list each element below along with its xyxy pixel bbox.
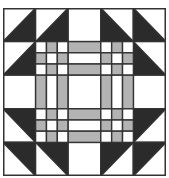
ninepatch-square-gray — [46, 109, 57, 120]
ninepatch-square-light — [123, 42, 134, 53]
ninepatch-square-gray — [101, 120, 112, 131]
ninepatch-square-light — [123, 109, 134, 120]
vertical-strip-gray — [36, 75, 47, 109]
ninepatch-square-light — [46, 53, 57, 64]
ninepatch-square-light — [46, 120, 57, 131]
horizontal-strip-light — [68, 120, 101, 131]
vertical-strip-light — [112, 75, 123, 109]
outer-cell — [3, 75, 36, 109]
horizontal-strip-gray — [68, 131, 101, 142]
outer-cell — [68, 142, 101, 176]
ninepatch-square-gray — [46, 131, 57, 142]
horizontal-strip-gray — [68, 64, 101, 75]
ninepatch-square-gray — [57, 53, 68, 64]
ninepatch-square-light — [36, 42, 47, 53]
ninepatch-square-gray — [57, 120, 68, 131]
vertical-strip-gray — [57, 75, 68, 109]
outer-cell — [133, 75, 166, 109]
ninepatch-square-light — [57, 42, 68, 53]
vertical-strip-light — [46, 75, 57, 109]
ninepatch-square-light — [57, 131, 68, 142]
ninepatch-square-gray — [112, 64, 123, 75]
ninepatch-square-gray — [123, 120, 134, 131]
ninepatch-square-light — [123, 131, 134, 142]
ninepatch-square-gray — [112, 42, 123, 53]
ninepatch-square-gray — [46, 64, 57, 75]
outer-cell — [68, 8, 101, 42]
ninepatch-square-light — [101, 42, 112, 53]
horizontal-strip-light — [68, 53, 101, 64]
ninepatch-square-light — [123, 64, 134, 75]
horizontal-strip-gray — [68, 109, 101, 120]
horizontal-strip-gray — [68, 42, 101, 53]
ninepatch-square-light — [57, 109, 68, 120]
ninepatch-square-light — [112, 120, 123, 131]
ninepatch-square-gray — [123, 53, 134, 64]
ninepatch-square-gray — [46, 42, 57, 53]
center-square — [68, 75, 101, 109]
ninepatch-square-light — [101, 64, 112, 75]
ninepatch-square-gray — [112, 131, 123, 142]
quilt-block-svg — [3, 8, 166, 176]
ninepatch-square-light — [57, 64, 68, 75]
vertical-strip-gray — [123, 75, 134, 109]
ninepatch-square-light — [112, 53, 123, 64]
vertical-strip-gray — [101, 75, 112, 109]
ninepatch-square-light — [36, 109, 47, 120]
quilt-block-diagram — [3, 8, 166, 176]
ninepatch-square-gray — [36, 120, 47, 131]
ninepatch-square-gray — [36, 53, 47, 64]
ninepatch-square-light — [36, 131, 47, 142]
ninepatch-square-light — [101, 109, 112, 120]
ninepatch-square-gray — [101, 53, 112, 64]
ninepatch-square-gray — [112, 109, 123, 120]
ninepatch-square-light — [36, 64, 47, 75]
ninepatch-square-light — [101, 131, 112, 142]
